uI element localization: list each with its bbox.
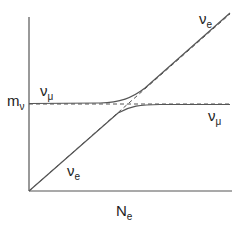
nu-e-top-right-sub: e	[207, 19, 213, 30]
nu-mu-right-sub: μ	[216, 116, 222, 127]
y-axis-label-main: m	[7, 92, 20, 109]
level-crossing-diagram: mν νμ νe νμ νe Ne	[0, 0, 244, 227]
nu-mu-left-label: νμ	[40, 83, 53, 99]
x-axis-label: Ne	[116, 203, 132, 219]
nu-mu-right-main: ν	[208, 107, 216, 124]
nu-mu-right-label: νμ	[208, 108, 221, 124]
lower-eigenstate-curve	[29, 105, 230, 192]
x-axis-label-main: N	[116, 202, 127, 219]
nu-e-lower-left-label: νe	[67, 163, 80, 179]
y-axis-label: mν	[7, 93, 25, 109]
x-axis-label-sub: e	[127, 211, 133, 222]
y-axis-label-sub: ν	[20, 101, 25, 112]
nu-mu-left-sub: μ	[48, 91, 54, 102]
nu-e-top-right-label: νe	[199, 11, 212, 27]
nu-e-lower-left-sub: e	[75, 171, 81, 182]
nu-e-lower-left-main: ν	[67, 162, 75, 179]
nu-mu-left-main: ν	[40, 82, 48, 99]
nu-e-top-right-main: ν	[199, 10, 207, 27]
